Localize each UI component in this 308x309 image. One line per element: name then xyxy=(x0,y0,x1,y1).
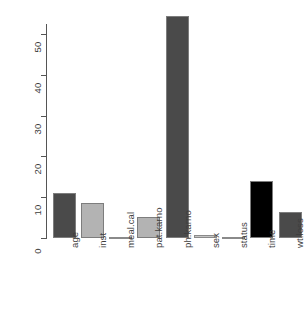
x-tick-label-meal.cal: meal.cal xyxy=(125,212,136,248)
x-tick-label-pat.karno: pat.karno xyxy=(153,207,164,248)
x-tick-label-wt.loss: wt.loss xyxy=(294,218,305,248)
bar-ph.karno xyxy=(166,16,189,238)
y-tick-label: 40 xyxy=(31,75,45,101)
y-tick-label: 0 xyxy=(31,238,45,264)
y-axis-line xyxy=(46,24,47,239)
y-tick-label: 20 xyxy=(31,156,45,182)
x-tick-label-age: age xyxy=(69,232,80,248)
y-tick-label: 50 xyxy=(31,34,45,60)
y-tick-label: 10 xyxy=(31,197,45,223)
y-tick-label: 30 xyxy=(31,116,45,142)
bar-chart: 01020304050 ageinstmeal.calpat.karnoph.k… xyxy=(0,0,308,309)
x-tick-label-sex: sex xyxy=(210,233,221,248)
x-tick-label-inst: inst xyxy=(97,233,108,248)
x-tick-label-ph.karno: ph.karno xyxy=(182,210,193,248)
x-tick-label-time: time xyxy=(266,230,277,248)
x-tick-label-status: status xyxy=(238,222,249,248)
plot-area: 01020304050 ageinstmeal.calpat.karnoph.k… xyxy=(0,0,308,309)
